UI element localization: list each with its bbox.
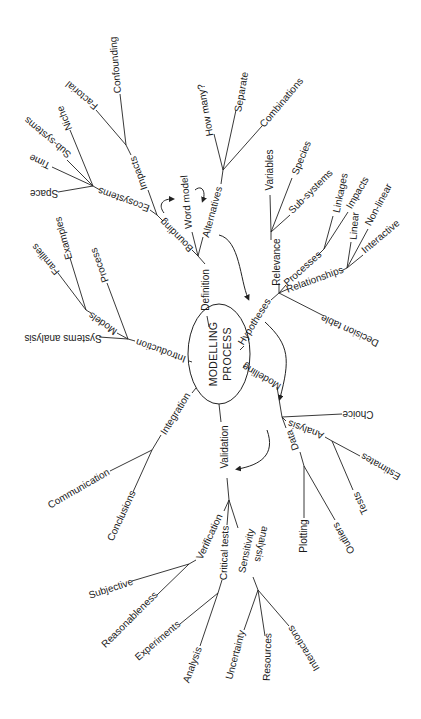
node-space: Space — [29, 188, 58, 199]
node-outliers: Outliers — [330, 521, 357, 556]
node-time: Time — [27, 152, 52, 171]
branch-validation: Validation Verification Subjective Reaso… — [87, 404, 322, 684]
node-process: Process — [88, 246, 111, 284]
node-variables: Variables — [264, 150, 275, 191]
node-integration: Integration — [158, 391, 192, 437]
node-families: Families — [29, 242, 61, 278]
node-choice: Choice — [342, 409, 374, 420]
center-node: MODELLING PROCESS — [188, 304, 250, 404]
node-decision-table: Decision table — [318, 312, 380, 349]
node-models: Models — [86, 310, 119, 338]
node-introduction: Introduction — [134, 337, 187, 365]
node-systems-analysis: Systems analysis — [24, 333, 101, 344]
node-factorial: Factorial — [63, 79, 99, 112]
node-plotting: Plotting — [298, 519, 309, 552]
node-separate: Separate — [232, 70, 250, 112]
node-combinations: Combinations — [257, 75, 305, 129]
node-communication: Communication — [46, 466, 112, 510]
node-species: Species — [289, 139, 313, 176]
node-niche: Niche — [54, 104, 74, 132]
node-confounding: Confounding — [107, 36, 123, 93]
node-how-many: How many? — [195, 83, 215, 137]
node-experiments: Experiments — [133, 618, 183, 662]
node-examples: Examples — [52, 216, 74, 261]
node-resources: Resources — [261, 633, 274, 681]
mind-map-diagram: MODELLING PROCESS Definition Bounding Ec… — [0, 0, 421, 719]
node-interactions: Interactions — [285, 624, 322, 674]
branch-hypotheses: Hypotheses Relevance Variables Species S… — [236, 139, 402, 398]
branch-introduction: Introduction Systems analysis Models Fam… — [24, 216, 192, 365]
center-label-line1: MODELLING — [207, 322, 219, 387]
node-estimates: Estimates — [359, 451, 403, 482]
node-relevance: Relevance — [271, 238, 282, 286]
node-tests: Tests — [350, 490, 370, 516]
node-uncertainty: Uncertainty — [223, 629, 247, 681]
node-analysis-crit: Analysis — [181, 645, 204, 684]
branch-integration: Integration Communication Conclusions — [46, 388, 196, 543]
node-critical-tests: Critical tests — [218, 526, 231, 581]
node-definition: Definition — [200, 269, 211, 311]
node-conclusions: Conclusions — [105, 489, 138, 543]
node-impacts: Impacts — [127, 155, 149, 192]
node-linear: Linear — [347, 211, 360, 240]
node-subjective: Subjective — [87, 576, 135, 601]
node-word-model: Word model — [178, 175, 194, 229]
node-sensitivity: Sensitivity — [236, 528, 256, 574]
node-validation: Validation — [219, 425, 230, 468]
center-label-line2: PROCESS — [221, 327, 233, 380]
